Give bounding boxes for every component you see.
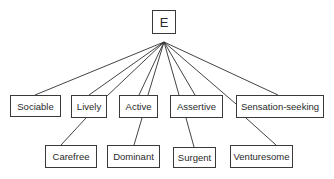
node-sociable: Sociable [10, 95, 61, 117]
node-surgent: Surgent [173, 147, 216, 168]
edge-e-active [139, 42, 164, 95]
edge-e-assertive [164, 42, 179, 95]
node-sensation-seeking: Sensation-seeking [236, 95, 324, 118]
node-dominant: Dominant [107, 145, 160, 168]
trait-hierarchy-diagram: E Sociable Lively Active Assertive Sensa… [0, 0, 334, 179]
edge-sensation-venturesome [246, 118, 276, 145]
edge-active-dominant [134, 118, 142, 145]
node-assertive: Assertive [170, 95, 223, 118]
edge-assertive-surgent [186, 118, 194, 147]
edge-lively-carefree [61, 118, 86, 145]
node-active: Active [119, 95, 158, 118]
node-carefree: Carefree [45, 145, 97, 168]
edge-e-sensation-seeking [164, 42, 278, 95]
node-venturesome: Venturesome [230, 145, 293, 168]
edge-e-assertive-right [164, 42, 195, 95]
node-e: E [152, 10, 176, 34]
node-lively: Lively [71, 95, 107, 118]
